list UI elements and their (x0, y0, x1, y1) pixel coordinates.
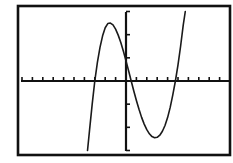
calculator-graph-screen (0, 0, 233, 163)
graph-plot (0, 0, 233, 163)
